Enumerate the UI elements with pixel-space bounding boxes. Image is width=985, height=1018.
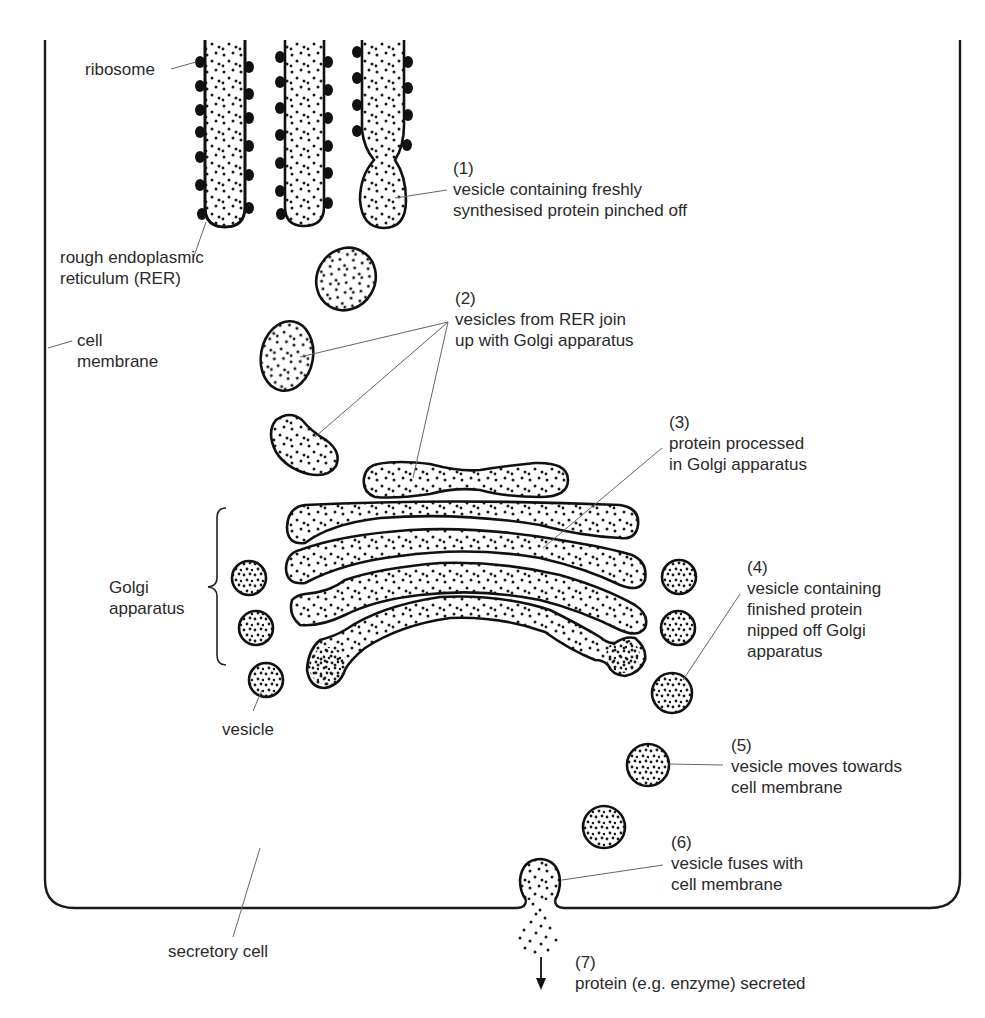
label-rer: rough endoplasmic reticulum (RER) <box>60 247 204 289</box>
secretory-vesicle-fusing <box>520 859 560 900</box>
transport-vesicle-2 <box>255 317 318 395</box>
rer-cisterna-3-budding <box>352 40 413 228</box>
step-6-label: (6) vesicle fuses with cell membrane <box>671 832 803 895</box>
label-ribosome: ribosome <box>85 59 155 80</box>
step-1-label: (1) vesicle containing freshly synthesis… <box>453 158 687 221</box>
label-secretory-cell: secretory cell <box>168 941 268 962</box>
label-vesicle: vesicle <box>222 719 274 740</box>
step-4-label: (4) vesicle containing finished protein … <box>747 557 881 662</box>
secretion-arrow-icon <box>536 957 546 990</box>
golgi-fusing-vesicle <box>364 462 568 498</box>
step-3-label: (3) protein processed in Golgi apparatus <box>669 412 807 475</box>
secretory-vesicle-5 <box>627 744 669 786</box>
label-cell-membrane: cell membrane <box>77 330 158 372</box>
label-golgi-apparatus: Golgi apparatus <box>109 577 185 619</box>
step-7-label: (7) protein (e.g. enzyme) secreted <box>575 952 806 994</box>
transport-vesicle-1 <box>305 237 387 321</box>
step-2-label: (2) vesicles from RER join up with Golgi… <box>455 288 634 351</box>
step-5-label: (5) vesicle moves towards cell membrane <box>731 735 902 798</box>
golgi-vesicle-left-3 <box>249 663 283 697</box>
golgi-vesicle-left-2 <box>239 611 273 645</box>
golgi-vesicle-right-2 <box>661 611 695 645</box>
transport-vesicle-3 <box>271 415 338 475</box>
secretory-vesicle-transit <box>583 806 625 848</box>
golgi-vesicle-right-1 <box>662 560 696 594</box>
rer-cisterna-1 <box>195 40 254 227</box>
golgi-cisternae <box>286 502 646 689</box>
secretion-diagram <box>0 0 985 1018</box>
golgi-vesicle-left-1 <box>232 561 266 595</box>
golgi-brace <box>208 508 226 665</box>
secretory-vesicle-4 <box>652 673 692 713</box>
rer-cisterna-2 <box>275 40 333 226</box>
secreted-protein-dots <box>519 903 558 954</box>
